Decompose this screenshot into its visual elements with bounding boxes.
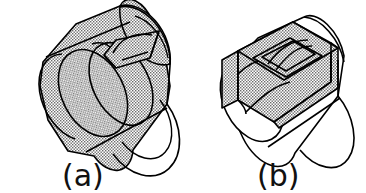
figure-panel: (a) (b) [0,0,366,193]
figure-a-group [39,0,179,176]
technical-drawing-canvas [0,0,366,193]
figure-b-group [208,16,354,168]
figure-b-slab-near-face [222,51,238,108]
